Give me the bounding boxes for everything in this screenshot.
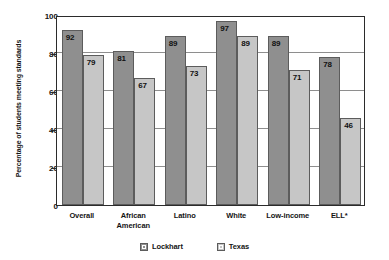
bar-value-label: 92	[66, 34, 75, 42]
bar: 92	[62, 30, 83, 205]
bar: 73	[186, 66, 207, 205]
bar: 79	[83, 55, 104, 205]
bar: 78	[319, 57, 340, 205]
bar-value-label: 81	[117, 55, 126, 63]
bar-value-label: 79	[87, 59, 96, 67]
bar: 81	[113, 51, 134, 205]
y-axis-tick-label: 100	[28, 12, 58, 21]
bar: 97	[216, 21, 237, 205]
gridline	[57, 52, 364, 53]
bar-value-label: 89	[241, 40, 250, 48]
bar-value-label: 97	[220, 25, 229, 33]
legend-label: Lockhart	[152, 242, 183, 251]
bar-value-label: 78	[323, 61, 332, 69]
bar: 89	[165, 36, 186, 205]
legend-swatch-icon	[217, 243, 225, 251]
y-axis-tick-label: 0	[28, 202, 58, 211]
legend-swatch-icon	[140, 243, 148, 251]
x-axis-tick-label-line: ELL*	[299, 211, 379, 221]
bar: 67	[134, 78, 155, 205]
bar: 46	[340, 118, 361, 205]
legend-label: Texas	[229, 242, 249, 251]
bar: 71	[289, 70, 310, 205]
plot-area: 927981678973978989717846	[56, 16, 365, 206]
legend-item: Lockhart	[140, 242, 183, 251]
chart-legend: LockhartTexas	[0, 242, 389, 251]
bar-value-label: 89	[169, 40, 178, 48]
bar-value-label: 71	[293, 74, 302, 82]
x-axis-tick-label-line: American	[93, 221, 173, 231]
bar-value-label: 89	[272, 40, 281, 48]
bar-value-label: 73	[190, 70, 199, 78]
legend-item: Texas	[217, 242, 249, 251]
bar-value-label: 46	[344, 122, 353, 130]
bar-chart: Percentage of students meeting standards…	[0, 0, 389, 260]
y-axis-title: Percentage of students meeting standards	[15, 14, 22, 204]
bar: 89	[268, 36, 289, 205]
x-axis-tick-label: ELL*	[299, 211, 379, 221]
bar: 89	[237, 36, 258, 205]
bar-value-label: 67	[138, 82, 147, 90]
